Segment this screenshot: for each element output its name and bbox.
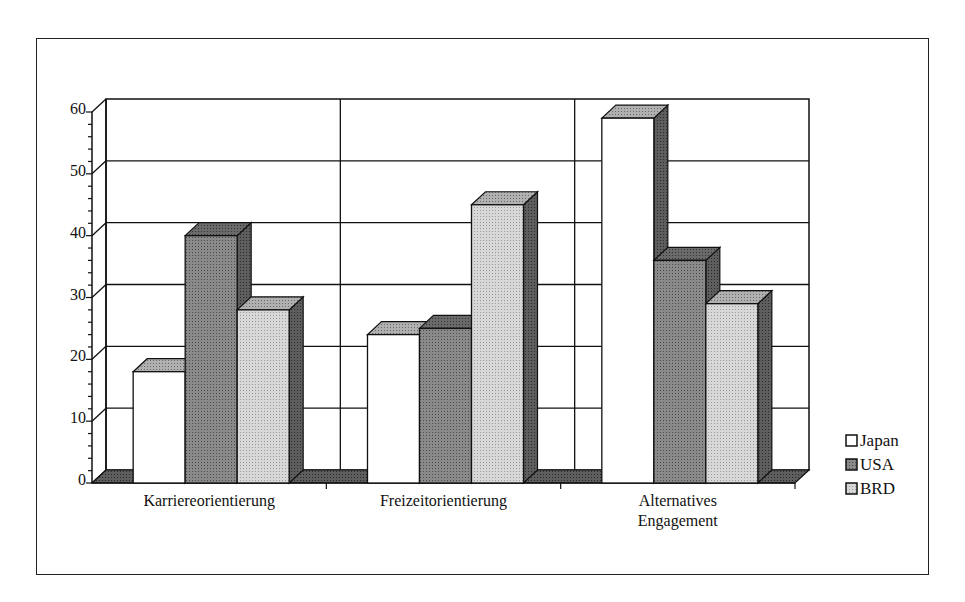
legend-swatch bbox=[846, 435, 857, 446]
x-category-label: Karriereorientierung bbox=[143, 492, 274, 510]
x-category-label: Alternatives bbox=[639, 492, 717, 509]
y-tick-label: 40 bbox=[70, 224, 86, 241]
y-axis: 0102030405060 bbox=[70, 100, 92, 488]
y-tick-label: 0 bbox=[78, 471, 86, 488]
legend-item-brd: BRD bbox=[846, 479, 895, 498]
gridline-depth bbox=[92, 161, 106, 174]
x-category-label: Freizeitorientierung bbox=[380, 492, 507, 510]
y-tick-label: 60 bbox=[70, 100, 86, 117]
y-tick-label: 10 bbox=[70, 409, 86, 426]
bar-brd-2 bbox=[706, 291, 772, 483]
legend-item-japan: Japan bbox=[846, 431, 899, 450]
legend-swatch bbox=[846, 483, 857, 494]
legend-label: BRD bbox=[860, 479, 895, 498]
gridline-depth bbox=[92, 408, 106, 421]
legend: JapanUSABRD bbox=[846, 431, 899, 498]
gridline-depth bbox=[92, 346, 106, 359]
bar-brd-0 bbox=[237, 297, 303, 483]
gridline-depth bbox=[92, 99, 106, 112]
gridline-depth bbox=[92, 223, 106, 236]
legend-swatch bbox=[846, 459, 857, 470]
x-axis-labels: KarriereorientierungFreizeitorientierung… bbox=[143, 483, 795, 530]
y-tick-label: 50 bbox=[70, 162, 86, 179]
legend-label: USA bbox=[860, 455, 895, 474]
legend-item-usa: USA bbox=[846, 455, 895, 474]
y-tick-label: 20 bbox=[70, 347, 86, 364]
x-category-label: Engagement bbox=[638, 512, 719, 530]
bar-brd-1 bbox=[472, 192, 538, 483]
y-tick-label: 30 bbox=[70, 286, 86, 303]
legend-label: Japan bbox=[860, 431, 899, 450]
bar-chart: 0102030405060 KarriereorientierungFreize… bbox=[0, 0, 965, 602]
gridline-depth bbox=[92, 285, 106, 298]
